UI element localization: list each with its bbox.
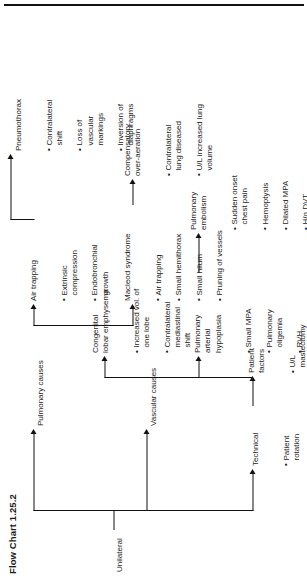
connector-air-trapping-elbow-vertical xyxy=(10,219,34,220)
node-air-trapping-head: Air trapping xyxy=(28,221,38,301)
arrowhead-pneumothorax xyxy=(7,154,13,159)
arrowhead-technical xyxy=(249,469,255,474)
connector-to-compensatory-over-aeration xyxy=(132,183,133,205)
connector-vascular-to-pulmonary-arterial-hypoplasia xyxy=(198,360,199,378)
node-technical: Technical Patient rotation xyxy=(240,406,307,466)
list-item: Air trapping xyxy=(153,205,163,301)
arrowhead-vascular-causes xyxy=(143,429,149,434)
node-vascular-causes: Vascular causes xyxy=(138,346,169,426)
node-root-unilateral: Unilateral xyxy=(104,518,135,572)
figure-title: Flow Chart 1.25.2 xyxy=(6,494,17,574)
node-macleod-syndrome: Macleod syndrome Air trapping Small hemi… xyxy=(112,205,245,301)
arrowhead-macleod-syndrome xyxy=(129,304,135,309)
connector-air-trapping-elbow-horizontal xyxy=(10,158,11,220)
list-item: Small hilum xyxy=(194,205,204,301)
list-item: Patient rotation xyxy=(281,406,301,466)
list-item: Pruning of vessels xyxy=(214,205,224,301)
connector-vascular-spine xyxy=(104,377,252,378)
connector-vascular-to-congenital-lobar-emphysema xyxy=(104,360,105,378)
list-item: Contralateral shift xyxy=(44,63,64,151)
list-item: Pulmonary oligemia xyxy=(264,273,284,353)
list-item: Small hemithorax xyxy=(173,205,183,301)
node-air-trapping: Air trapping Extrinsic compression Endob… xyxy=(18,221,130,301)
list-item: RVH xyxy=(294,273,304,353)
node-pulmonary-causes: Pulmonary causes xyxy=(25,342,56,426)
arrowhead-compensatory-over-aeration xyxy=(129,179,135,184)
list-item: Hemoptysis xyxy=(260,138,270,230)
node-pneumothorax-list: Contralateral shift Loss of vascular mar… xyxy=(34,63,146,151)
list-item: Contralateral lung diseased xyxy=(163,80,183,176)
connector-pulmonary-to-macleod-syndrome xyxy=(132,308,133,326)
arrowhead-pulmonary-arterial-hypoplasia xyxy=(195,356,201,361)
arrowhead-pulmonary-causes xyxy=(30,429,36,434)
connector-technical-to-patient-factors xyxy=(252,380,253,406)
list-item: H/o DVT xyxy=(300,138,307,230)
node-compensatory-over-aeration-list: Contralateral lung diseased U/L increase… xyxy=(153,80,224,176)
list-item: Inversion of diaphragms xyxy=(115,63,135,151)
arrowhead-congenital-lobar-emphysema xyxy=(101,356,107,361)
node-vascular-causes-label: Vascular causes xyxy=(148,346,158,426)
list-item: Endobronchial growth xyxy=(89,221,109,301)
connector-to-pulmonary-causes xyxy=(33,433,34,511)
flowchart-stage: Flow Chart 1.25.2 Unilateral Pulmonary c… xyxy=(0,0,307,578)
node-pneumothorax: Pneumothorax Contralateral shift Loss of… xyxy=(3,63,156,151)
list-item: Loss of vascular markings xyxy=(74,63,105,151)
node-macleod-syndrome-list: Air trapping Small hemithorax Small hilu… xyxy=(143,205,235,301)
connector-root-stem xyxy=(113,510,114,530)
list-item: U/L increased lung volume xyxy=(194,80,214,176)
node-pulmonary-causes-label: Pulmonary causes xyxy=(35,342,45,426)
connector-to-technical xyxy=(252,473,253,511)
node-root-unilateral-label: Unilateral xyxy=(114,518,124,572)
node-pneumothorax-head: Pneumothorax xyxy=(13,63,23,151)
arrowhead-air-trapping xyxy=(30,304,36,309)
connector-pulmonary-to-air-trapping xyxy=(33,308,34,326)
connector-root-spine xyxy=(33,510,253,511)
list-item: Dilated MPA xyxy=(280,138,290,230)
node-technical-head: Technical xyxy=(250,406,260,466)
node-technical-list: Patient rotation xyxy=(271,406,307,466)
connector-pulmonary-spine xyxy=(33,325,133,326)
connector-to-vascular-causes xyxy=(146,433,147,511)
node-air-trapping-list: Extrinsic compression Endobronchial grow… xyxy=(49,221,120,301)
list-item: Extrinsic compression xyxy=(59,221,79,301)
